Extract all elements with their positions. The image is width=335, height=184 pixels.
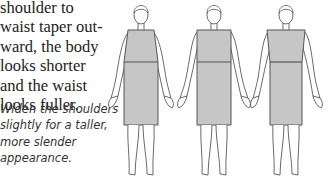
figure-widened-shoulders bbox=[251, 6, 323, 176]
right-hand bbox=[241, 96, 250, 108]
figure-straight bbox=[178, 6, 251, 176]
right-leg bbox=[143, 125, 154, 175]
garment bbox=[124, 30, 158, 125]
left-hand bbox=[251, 96, 259, 108]
right-leg bbox=[216, 125, 227, 175]
left-hand bbox=[109, 96, 118, 108]
garment bbox=[197, 30, 231, 125]
figures-illustration bbox=[0, 0, 335, 184]
left-leg bbox=[273, 125, 284, 175]
left-hand bbox=[178, 96, 187, 108]
right-hand bbox=[313, 96, 322, 108]
left-leg bbox=[201, 125, 212, 175]
right-leg bbox=[288, 125, 299, 175]
right-arm-inner bbox=[230, 44, 241, 96]
right-hand bbox=[164, 96, 173, 108]
left-arm-inner bbox=[259, 48, 270, 96]
left-leg bbox=[128, 125, 139, 175]
left-arm-inner bbox=[187, 44, 198, 96]
garment bbox=[267, 30, 305, 125]
figure-taper-outward bbox=[109, 6, 174, 176]
